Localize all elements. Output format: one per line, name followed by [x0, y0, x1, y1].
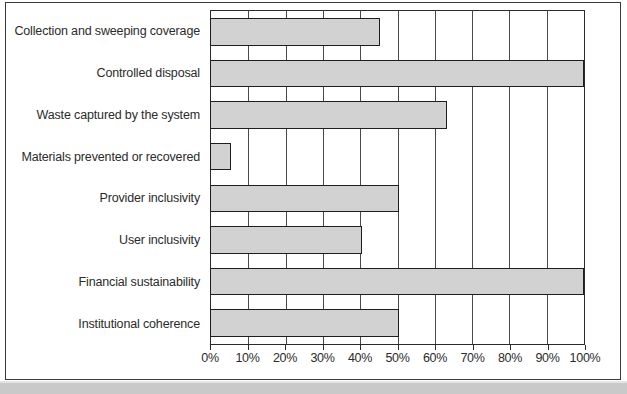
category-axis-labels: Collection and sweeping coverageControll… — [8, 10, 206, 345]
x-tick-mark — [510, 345, 511, 350]
page-edge-strip — [0, 383, 627, 394]
x-tick-mark — [473, 345, 474, 350]
x-tick-label: 50% — [385, 351, 409, 365]
bar-row — [211, 302, 584, 344]
x-tick-label: 90% — [535, 351, 559, 365]
x-tick-label: 30% — [310, 351, 334, 365]
x-tick-label: 10% — [235, 351, 259, 365]
bar — [210, 185, 400, 212]
category-label: Collection and sweeping coverage — [8, 10, 206, 52]
bar-row — [211, 219, 584, 261]
x-tick-mark — [210, 345, 211, 350]
bar — [210, 18, 381, 45]
x-tick-mark — [585, 345, 586, 350]
x-tick-label: 60% — [423, 351, 447, 365]
bar — [210, 309, 400, 336]
chart-figure: Collection and sweeping coverageControll… — [0, 0, 627, 394]
x-tick-mark — [398, 345, 399, 350]
category-label: User inclusivity — [8, 219, 206, 261]
x-tick-mark — [285, 345, 286, 350]
x-tick-label: 40% — [348, 351, 372, 365]
category-label: Institutional coherence — [8, 303, 206, 345]
x-tick-mark — [360, 345, 361, 350]
bar — [210, 60, 585, 87]
category-label: Financial sustainability — [8, 261, 206, 303]
x-tick-label: 70% — [460, 351, 484, 365]
x-tick-label: 100% — [570, 351, 601, 365]
x-tick-mark — [548, 345, 549, 350]
x-tick-label: 0% — [201, 351, 218, 365]
bar-row — [211, 136, 584, 178]
bar — [210, 143, 232, 170]
bar-row — [211, 178, 584, 220]
category-label: Provider inclusivity — [8, 178, 206, 220]
plot-area — [210, 10, 585, 345]
bar — [210, 226, 362, 253]
category-label: Controlled disposal — [8, 52, 206, 94]
bar — [210, 268, 585, 295]
x-tick-mark — [435, 345, 436, 350]
x-tick-mark — [323, 345, 324, 350]
bar-row — [211, 94, 584, 136]
x-tick-label: 80% — [498, 351, 522, 365]
bar-row — [211, 53, 584, 95]
bar — [210, 101, 448, 128]
x-tick-label: 20% — [273, 351, 297, 365]
bar-series — [211, 11, 584, 344]
category-label: Waste captured by the system — [8, 94, 206, 136]
category-label: Materials prevented or recovered — [8, 136, 206, 178]
bar-row — [211, 261, 584, 303]
x-axis: 0%10%20%30%40%50%60%70%80%90%100% — [210, 345, 585, 369]
bar-row — [211, 11, 584, 53]
x-tick-mark — [248, 345, 249, 350]
